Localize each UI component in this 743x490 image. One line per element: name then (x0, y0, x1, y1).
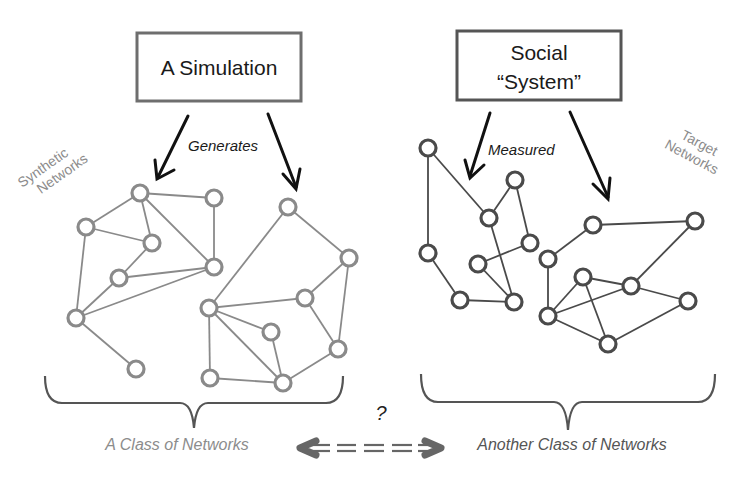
network-node (68, 310, 84, 326)
network-node (470, 256, 486, 272)
network-node (522, 235, 538, 251)
network-edge (631, 221, 695, 286)
comparison-question-mark: ? (375, 402, 387, 424)
network-node (507, 172, 523, 188)
network-edge (428, 148, 489, 218)
synthetic-networks-tag: Synthetic Networks (15, 137, 91, 204)
compare-double-arrow-icon (300, 441, 441, 455)
network-node (280, 199, 296, 215)
network-edge (515, 180, 530, 243)
target-network-2 (540, 213, 703, 352)
measured-label: Measured (488, 141, 555, 158)
network-node (585, 217, 601, 233)
network-node (128, 361, 144, 377)
network-node (687, 213, 703, 229)
network-node (600, 336, 616, 352)
network-node (78, 219, 94, 235)
network-edge (140, 193, 214, 267)
target-network-1 (420, 140, 538, 310)
synthetic-network-2 (201, 199, 357, 391)
network-edge (210, 378, 283, 383)
network-node (111, 270, 127, 286)
network-node (263, 324, 279, 340)
network-node (506, 294, 522, 310)
network-node (206, 259, 222, 275)
network-comparison-diagram: A Simulation Social “System” Generates M… (0, 0, 743, 490)
right-class-brace (421, 374, 715, 430)
generates-label: Generates (188, 137, 259, 154)
network-node (420, 140, 436, 156)
network-edge (76, 318, 136, 369)
arrow-to-synthetic-1 (158, 116, 188, 177)
networks-layer (68, 140, 703, 391)
network-node (680, 293, 696, 309)
social-system-box: Social “System” (457, 31, 621, 100)
network-node (202, 370, 218, 386)
network-node (540, 251, 556, 267)
simulation-label: A Simulation (161, 56, 278, 79)
arrow-to-synthetic-2 (268, 114, 296, 187)
left-class-brace (45, 376, 343, 428)
network-node (623, 278, 639, 294)
network-edge (338, 258, 349, 349)
arrow-to-target-2 (570, 112, 608, 197)
network-node (206, 190, 222, 206)
network-node (540, 308, 556, 324)
simulation-box: A Simulation (137, 33, 301, 101)
right-class-label: Another Class of Networks (476, 436, 666, 453)
network-edge (140, 193, 214, 198)
network-edge (76, 227, 86, 318)
network-node (575, 269, 591, 285)
network-edge (209, 308, 210, 378)
network-edge (86, 227, 152, 243)
network-node (132, 185, 148, 201)
network-edge (209, 308, 271, 332)
social-label-line1: Social (510, 41, 567, 64)
network-node (341, 250, 357, 266)
network-node (144, 235, 160, 251)
target-networks-tag: Target Networks (662, 122, 729, 178)
network-node (275, 375, 291, 391)
network-node (481, 210, 497, 226)
network-edge (209, 207, 288, 308)
network-edge (593, 221, 695, 225)
social-label-line2: “System” (497, 70, 581, 93)
arrow-to-target-1 (470, 113, 490, 176)
network-node (297, 290, 313, 306)
network-edge (283, 349, 338, 383)
network-node (420, 245, 436, 261)
synthetic-network-1 (68, 185, 222, 377)
network-node (330, 341, 346, 357)
network-edge (209, 298, 305, 308)
network-edge (209, 308, 283, 383)
network-node (452, 292, 468, 308)
network-edge (608, 301, 688, 344)
network-node (201, 300, 217, 316)
left-class-label: A Class of Networks (104, 436, 248, 453)
network-edge (288, 207, 349, 258)
